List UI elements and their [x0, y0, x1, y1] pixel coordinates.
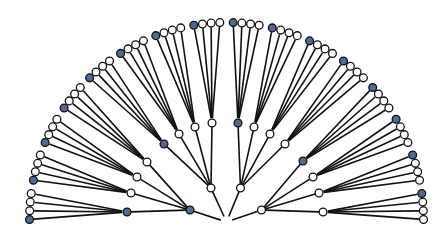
leaf-node — [411, 159, 419, 167]
leaf-node — [419, 198, 427, 206]
leaf-node — [419, 207, 427, 215]
edge-root-to-level1 — [194, 211, 221, 220]
edge-level1-to-level2 — [181, 137, 209, 184]
leaf-node — [385, 104, 393, 112]
edge-level2-to-leaf — [130, 53, 176, 130]
edge-level2-to-leaf — [233, 27, 237, 118]
leaf-node — [216, 19, 224, 27]
level2-node — [234, 119, 242, 127]
leaf-node — [414, 168, 422, 176]
leaf-node — [375, 90, 383, 98]
level2-node — [208, 119, 216, 127]
level2-node — [191, 123, 199, 131]
leaf-node — [27, 190, 35, 198]
leaf-node — [45, 131, 53, 139]
tree-edges — [34, 27, 419, 220]
leaf-node — [199, 20, 207, 28]
leaf-node — [26, 207, 34, 215]
edge-level2-to-leaf — [34, 212, 122, 219]
edge-level2-to-leaf — [195, 30, 211, 119]
leaf-node — [177, 24, 185, 32]
radial-tree-diagram — [0, 0, 448, 233]
leaf-node — [160, 29, 168, 37]
edge-level2-to-leaf — [328, 211, 419, 212]
leaf-node — [41, 139, 49, 147]
leaf-node — [346, 62, 354, 70]
level2-node — [160, 140, 168, 148]
edge-level2-to-leaf — [211, 28, 212, 119]
edge-level2-to-leaf — [328, 203, 418, 212]
leaf-node — [396, 123, 404, 131]
leaf-node — [353, 68, 361, 76]
leaf-node — [409, 151, 417, 159]
leaf-node — [255, 21, 263, 29]
leaf-node — [380, 97, 388, 105]
edge-root-to-level1 — [213, 192, 224, 217]
leaf-node — [124, 45, 132, 53]
leaf-node — [313, 41, 321, 49]
leaf-node — [285, 29, 293, 37]
leaf-node — [60, 104, 68, 112]
edge-level1-to-level2 — [238, 127, 240, 184]
leaf-node — [207, 19, 215, 27]
leaf-node — [99, 62, 107, 70]
level2-node — [175, 130, 183, 138]
leaf-node — [34, 159, 42, 167]
leaf-node — [30, 176, 38, 184]
edge-level2-to-leaf — [328, 212, 419, 219]
edge-level2-to-leaf — [83, 91, 144, 159]
edge-level2-to-leaf — [272, 45, 308, 130]
level2-node — [123, 208, 131, 216]
leaf-node — [190, 21, 198, 29]
level2-node — [127, 189, 135, 197]
leaf-node — [152, 32, 160, 40]
leaf-node — [418, 190, 426, 198]
level2-node — [266, 130, 274, 138]
level2-node — [309, 173, 317, 181]
leaf-node — [268, 24, 276, 32]
level1-node — [207, 184, 215, 192]
edge-level2-to-leaf — [324, 157, 409, 191]
leaf-node — [392, 115, 400, 123]
level2-node — [299, 157, 307, 165]
leaf-node — [247, 20, 255, 28]
edge-level2-to-leaf — [44, 157, 126, 191]
leaf-node — [26, 216, 34, 224]
leaf-node — [404, 139, 412, 147]
level2-node — [143, 158, 151, 166]
leaf-node — [329, 50, 337, 58]
leaf-node — [36, 151, 44, 159]
leaf-node — [168, 26, 176, 34]
edge-level2-to-leaf — [93, 81, 160, 141]
edge-level1-to-level2 — [265, 210, 319, 212]
level2-node — [319, 208, 327, 216]
leaf-node — [277, 26, 285, 34]
level1-node — [237, 184, 245, 192]
leaf-node — [49, 123, 57, 131]
leaf-node — [420, 216, 428, 224]
edge-level2-to-leaf — [36, 194, 123, 211]
level2-node — [315, 189, 323, 197]
edge-level2-to-leaf — [35, 203, 122, 212]
leaf-node — [360, 74, 368, 82]
leaf-node — [117, 50, 125, 58]
edge-root-to-level1 — [229, 192, 239, 217]
leaf-node — [31, 168, 39, 176]
edge-level1-to-level2 — [265, 179, 310, 208]
edge-root-to-level1 — [232, 211, 258, 220]
leaf-node — [340, 57, 348, 65]
edge-level1-to-level2 — [211, 127, 212, 184]
leaf-node — [293, 32, 301, 40]
leaf-node — [416, 176, 424, 184]
leaf-node — [321, 45, 329, 53]
leaf-node — [400, 131, 408, 139]
leaf-node — [229, 19, 237, 27]
leaf-node — [76, 84, 84, 92]
edge-level2-to-leaf — [34, 211, 122, 212]
leaf-node — [92, 68, 100, 76]
level1-node — [186, 206, 194, 214]
edge-level2-to-leaf — [212, 27, 219, 118]
leaf-node — [71, 90, 79, 98]
leaf-node — [238, 19, 246, 27]
edge-level2-to-leaf — [255, 34, 279, 122]
